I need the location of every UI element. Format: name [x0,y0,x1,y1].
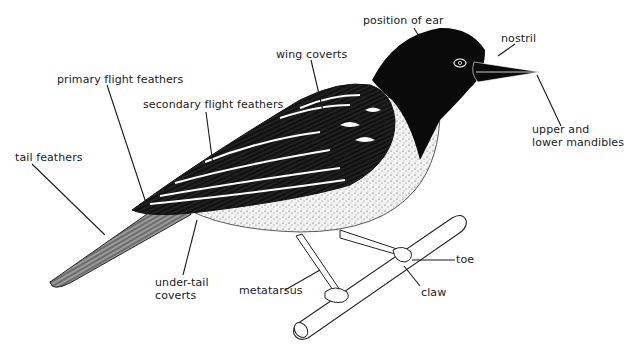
label-claw: claw [421,286,446,299]
label-position-of-ear: position of ear [363,14,444,27]
bird-anatomy-diagram: position of ear nostril wing coverts pri… [0,0,633,351]
label-nostril: nostril [501,32,536,45]
label-primary-flight-feathers: primary flight feathers [57,73,183,86]
label-tail-feathers: tail feathers [15,151,83,164]
label-upper-and-lower-mandibles: upper and lower mandibles [532,123,624,149]
label-secondary-flight-feathers: secondary flight feathers [143,98,283,111]
perch-branch [291,215,466,340]
label-under-tail-coverts: under-tail coverts [155,276,209,302]
label-wing-coverts: wing coverts [276,48,347,61]
label-toe: toe [456,253,474,266]
label-metatarsus: metatarsus [239,284,303,297]
